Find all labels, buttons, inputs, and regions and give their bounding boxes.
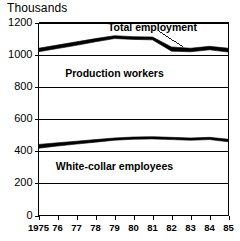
series-annotation-label: Total employment	[108, 21, 197, 33]
x-tick-label: 82	[166, 222, 177, 233]
band-total-employment	[39, 36, 229, 52]
x-tick-label: 81	[147, 222, 158, 233]
data-bands	[39, 36, 229, 149]
employment-band-chart: Thousands 020040060080010001200 19757677…	[0, 0, 240, 241]
x-tick-label: 77	[71, 222, 82, 233]
x-tick-label: 78	[90, 222, 101, 233]
x-tick-label: 84	[204, 222, 215, 233]
series-annotation-label: Production workers	[65, 67, 164, 79]
y-tick-label: 600	[1, 112, 33, 124]
x-tick-label: 80	[128, 222, 139, 233]
x-tick-label: 79	[109, 222, 120, 233]
x-tick-label: 83	[185, 222, 196, 233]
plot-area	[0, 0, 240, 241]
band-white-collar-employees	[39, 137, 229, 149]
y-tick-label: 1000	[1, 48, 33, 60]
y-tick-label: 800	[1, 80, 33, 92]
series-annotation-label: White-collar employees	[56, 160, 173, 172]
y-tick-label: 0	[1, 209, 33, 221]
y-tick-label: 400	[1, 144, 33, 156]
x-tick-label: 85	[223, 222, 234, 233]
x-tick-label: 76	[52, 222, 63, 233]
x-tick-label: 1975	[28, 222, 49, 233]
y-tick-label: 1200	[1, 16, 33, 28]
y-tick-label: 200	[1, 176, 33, 188]
